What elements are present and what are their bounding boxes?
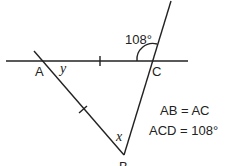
fact-ab-ac: AB = AC: [160, 103, 210, 118]
angle-label-y: y: [58, 61, 67, 76]
line-ab: [34, 51, 124, 155]
triangle-diagram: 108° A y C x B AB = AC ACD = 108°: [0, 0, 229, 166]
angle-label-x: x: [115, 129, 123, 144]
point-label-b: B: [119, 159, 128, 166]
point-label-c: C: [152, 64, 161, 79]
point-label-a: A: [35, 64, 44, 79]
fact-acd: ACD = 108°: [149, 123, 218, 138]
angle-label-108: 108°: [125, 32, 152, 47]
